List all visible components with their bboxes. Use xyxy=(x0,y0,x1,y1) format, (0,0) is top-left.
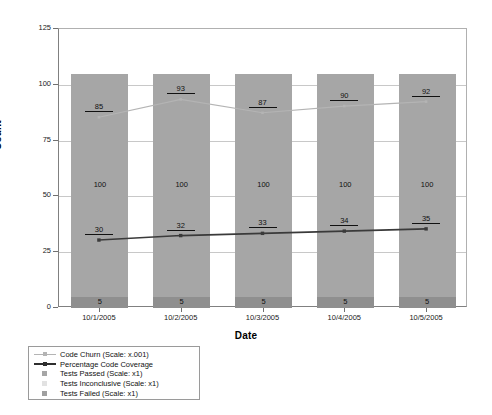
legend-item[interactable]: Tests Inconclusive (Scale: x1) xyxy=(29,379,199,389)
x-tick-label: 10/2/2005 xyxy=(141,313,221,322)
series-marker xyxy=(343,229,346,232)
y-tick-label: 50 xyxy=(18,191,51,199)
y-tick-label: 125 xyxy=(18,24,51,32)
legend-swatch xyxy=(42,381,47,386)
legend-marker-icon xyxy=(34,389,56,398)
legend-swatch xyxy=(42,371,47,376)
legend-swatch xyxy=(42,391,47,396)
series-marker xyxy=(97,238,100,241)
legend-item-label: Code Churn (Scale: x.001) xyxy=(60,350,149,359)
x-tick-mark xyxy=(263,308,264,312)
x-tick-label: 10/3/2005 xyxy=(223,313,303,322)
series-marker xyxy=(98,116,101,119)
series-marker xyxy=(261,232,264,235)
y-tick-mark xyxy=(53,307,58,308)
series-point-label: 93 xyxy=(167,85,195,94)
x-tick-label: 10/5/2005 xyxy=(386,313,466,322)
series-point-label: 85 xyxy=(85,103,113,112)
series-point-label: 35 xyxy=(412,215,440,224)
series-point-label: 32 xyxy=(167,222,195,231)
series-marker xyxy=(343,105,346,108)
x-tick-mark xyxy=(426,308,427,312)
y-tick-label: 100 xyxy=(18,80,51,88)
y-tick-label: 25 xyxy=(18,247,51,255)
legend-item-label: Percentage Code Coverage xyxy=(60,360,153,369)
series-marker xyxy=(424,227,427,230)
x-tick-mark xyxy=(181,308,182,312)
legend-item-label: Tests Failed (Scale: x1) xyxy=(60,389,138,398)
series-point-label: 34 xyxy=(330,217,358,226)
legend-item-label: Tests Passed (Scale: x1) xyxy=(60,369,143,378)
x-axis-title: Date xyxy=(0,330,492,341)
chart-container: Count 0255075100125 51005100510051005100… xyxy=(0,0,492,415)
x-tick-mark xyxy=(99,308,100,312)
x-tick-label: 10/1/2005 xyxy=(59,313,139,322)
legend-item[interactable]: Tests Passed (Scale: x1) xyxy=(29,369,199,379)
x-tick-label: 10/4/2005 xyxy=(304,313,384,322)
series-lines xyxy=(58,28,467,307)
legend: Code Churn (Scale: x.001)Percentage Code… xyxy=(28,346,200,400)
series-point-label: 90 xyxy=(330,92,358,101)
series-marker xyxy=(179,98,182,101)
series-point-label: 87 xyxy=(249,99,277,108)
series-point-label: 30 xyxy=(85,226,113,235)
legend-item-label: Tests Inconclusive (Scale: x1) xyxy=(60,379,159,388)
legend-marker-icon xyxy=(34,360,56,369)
legend-item[interactable]: Code Churn (Scale: x.001) xyxy=(29,350,199,360)
series-marker xyxy=(179,234,182,237)
legend-dot xyxy=(43,352,47,356)
series-marker xyxy=(261,112,264,115)
x-tick-mark xyxy=(344,308,345,312)
legend-marker-icon xyxy=(34,350,56,359)
y-tick-label: 75 xyxy=(18,136,51,144)
series-point-label: 92 xyxy=(412,88,440,97)
series-marker xyxy=(425,100,428,103)
legend-marker-icon xyxy=(34,379,56,388)
y-tick-label: 0 xyxy=(18,303,51,311)
series-point-label: 33 xyxy=(249,219,277,228)
legend-marker-icon xyxy=(34,369,56,378)
y-axis-title: Count xyxy=(0,120,3,150)
legend-item[interactable]: Percentage Code Coverage xyxy=(29,360,199,370)
legend-item[interactable]: Tests Failed (Scale: x1) xyxy=(29,388,199,398)
legend-dot xyxy=(43,362,47,366)
